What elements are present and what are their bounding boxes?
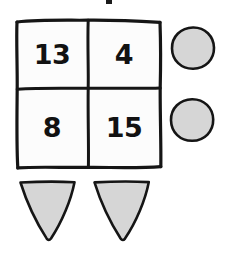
figure-canvas: 13 4 8 15 (0, 0, 231, 253)
grid-divider-vertical (88, 20, 89, 167)
triangle-group (21, 182, 149, 240)
sketch-figure: 13 4 8 15 (0, 0, 231, 253)
circle-top (172, 27, 214, 68)
top-speck-mark (106, 0, 112, 4)
triangle-right (95, 182, 149, 240)
circle-group (171, 27, 214, 140)
grid-cell-value-0-1: 4 (115, 39, 133, 70)
grid-cell-value-1-1: 15 (106, 112, 143, 143)
triangle-left (21, 182, 75, 240)
grid-cell-value-1-0: 8 (43, 112, 61, 143)
grid-cell-value-0-0: 13 (34, 39, 71, 70)
circle-bottom (171, 99, 213, 141)
grid-border-left (17, 22, 18, 168)
number-grid: 13 4 8 15 (17, 20, 161, 168)
grid-border-right (160, 22, 161, 166)
